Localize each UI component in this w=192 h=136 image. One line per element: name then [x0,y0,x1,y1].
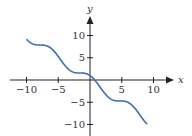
y-tick-label: −5 [70,97,85,108]
y-axis: y [86,3,94,136]
x-tick-label: −5 [51,84,66,95]
y-tick-label: −10 [64,119,85,130]
y-axis-label: y [86,3,93,14]
x-tick-label: 5 [119,84,125,95]
y-axis-arrow-icon [87,16,94,24]
x-tick-label: 10 [147,84,160,95]
chart: x y −10−5510 105−5−10 [0,0,192,136]
x-axis-arrow-icon [166,77,174,84]
x-axis-label: x [178,74,184,85]
y-tick-label: 5 [79,52,85,63]
x-tick-label: −10 [16,84,37,95]
function-curve [27,39,148,124]
y-tick-label: 10 [72,30,85,41]
